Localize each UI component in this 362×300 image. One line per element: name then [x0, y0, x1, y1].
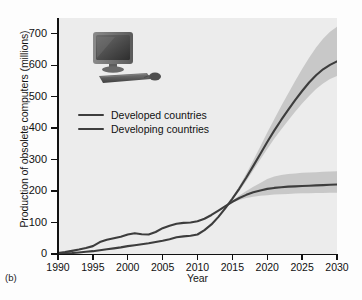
y-axis-tick-label: 100	[7, 216, 47, 228]
y-axis-tick	[51, 33, 58, 34]
x-axis-tick	[301, 254, 302, 260]
desktop-computer-icon	[85, 28, 165, 98]
x-axis-tick	[92, 254, 93, 260]
y-axis-tick-label: 200	[7, 184, 47, 196]
y-axis-tick	[51, 159, 58, 160]
chart-legend: Developed countries Developing countries	[78, 108, 209, 136]
y-axis-tick-label: 600	[7, 58, 47, 70]
legend-swatch-developed	[78, 114, 104, 117]
y-axis-line	[57, 18, 59, 255]
legend-item-developed: Developed countries	[78, 108, 209, 122]
y-axis-tick	[51, 65, 58, 66]
legend-swatch-developing	[78, 128, 104, 131]
x-axis-title: Year	[58, 272, 337, 284]
y-axis-tick-label: 300	[7, 153, 47, 165]
y-axis-tick-label: 400	[7, 121, 47, 133]
panel-label: (b)	[5, 272, 17, 283]
x-axis-tick	[57, 254, 58, 260]
x-axis-tick	[232, 254, 233, 260]
x-axis-tick	[162, 254, 163, 260]
y-axis-tick	[51, 96, 58, 97]
x-axis-tick	[267, 254, 268, 260]
x-axis-tick	[336, 254, 337, 260]
y-axis-tick-label: 0	[7, 247, 47, 259]
y-axis-tick-label: 500	[7, 90, 47, 102]
y-axis-tick-label: 700	[7, 27, 47, 39]
legend-label-developed: Developed countries	[111, 109, 207, 121]
legend-label-developing: Developing countries	[111, 123, 209, 135]
x-axis-tick	[127, 254, 128, 260]
y-axis-tick	[51, 222, 58, 223]
legend-item-developing: Developing countries	[78, 122, 209, 136]
y-axis-tick	[51, 127, 58, 128]
x-axis-tick	[197, 254, 198, 260]
y-axis-tick	[51, 190, 58, 191]
figure-panel: Production of obsolete computers (millio…	[0, 0, 362, 300]
